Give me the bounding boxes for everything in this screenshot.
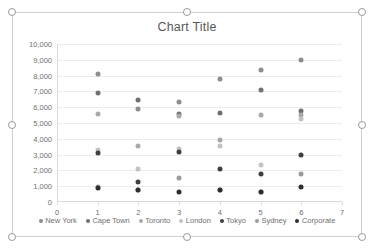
legend-item-london[interactable]: London [179, 216, 211, 225]
data-point[interactable] [258, 171, 263, 176]
y-tick-label: 6,000 [20, 103, 52, 112]
legend-marker-icon [139, 219, 143, 223]
y-tick-label: 10,000 [20, 40, 52, 49]
x-tick-mark [138, 202, 139, 205]
x-tick-mark [220, 202, 221, 205]
data-point[interactable] [136, 167, 141, 172]
y-tick-label: 2,000 [20, 166, 52, 175]
data-point[interactable] [136, 179, 141, 184]
legend-label: London [186, 216, 211, 225]
legend-item-tokyo[interactable]: Tokyo [220, 216, 246, 225]
gridline-y [57, 44, 342, 45]
legend-label: Cape Town [92, 216, 129, 225]
y-tick-label: 3,000 [20, 151, 52, 160]
data-point[interactable] [217, 143, 222, 148]
data-point[interactable] [177, 149, 182, 154]
data-point[interactable] [177, 175, 182, 180]
data-point[interactable] [177, 189, 182, 194]
legend-marker-icon [179, 219, 183, 223]
legend-label: New York [45, 216, 77, 225]
data-point[interactable] [299, 57, 304, 62]
y-tick-label: 7,000 [20, 87, 52, 96]
resize-handle-bottom-left[interactable] [8, 233, 16, 241]
data-point[interactable] [95, 150, 100, 155]
data-point[interactable] [177, 99, 182, 104]
x-tick-mark [57, 202, 58, 205]
resize-handle-top-left[interactable] [8, 8, 16, 16]
chart-object[interactable]: Chart Title 01,0002,0003,0004,0005,0006,… [12, 12, 362, 237]
resize-handle-middle-right[interactable] [358, 121, 366, 129]
data-point[interactable] [217, 77, 222, 82]
resize-handle-middle-left[interactable] [8, 121, 16, 129]
data-point[interactable] [136, 98, 141, 103]
data-point[interactable] [299, 172, 304, 177]
resize-handle-bottom-right[interactable] [358, 233, 366, 241]
y-tick-label: 5,000 [20, 119, 52, 128]
x-tick-mark [301, 202, 302, 205]
legend-item-cape-town[interactable]: Cape Town [86, 216, 130, 225]
y-tick-label: 4,000 [20, 135, 52, 144]
resize-handle-bottom-center[interactable] [183, 233, 191, 241]
resize-handle-top-right[interactable] [358, 8, 366, 16]
data-point[interactable] [136, 143, 141, 148]
data-point[interactable] [258, 68, 263, 73]
data-point[interactable] [136, 187, 141, 192]
legend-item-sydney[interactable]: Sydney [255, 216, 287, 225]
legend-marker-icon [39, 219, 43, 223]
legend-marker-icon [86, 219, 90, 223]
x-tick-mark [261, 202, 262, 205]
data-point[interactable] [177, 113, 182, 118]
legend-label: Sydney [261, 216, 286, 225]
y-tick-label: 1,000 [20, 182, 52, 191]
data-point[interactable] [217, 166, 222, 171]
chart-legend[interactable]: New YorkCape TownTorontoLondonTokyoSydne… [12, 216, 362, 225]
data-point[interactable] [95, 90, 100, 95]
data-point[interactable] [217, 138, 222, 143]
legend-item-new-york[interactable]: New York [39, 216, 77, 225]
legend-marker-icon [255, 219, 259, 223]
gridline-y [57, 76, 342, 77]
data-point[interactable] [217, 110, 222, 115]
data-point[interactable] [299, 152, 304, 157]
data-point[interactable] [258, 112, 263, 117]
data-point[interactable] [95, 112, 100, 117]
legend-label: Toronto [145, 216, 170, 225]
y-tick-label: 9,000 [20, 56, 52, 65]
data-point[interactable] [299, 184, 304, 189]
x-axis-line [57, 201, 342, 202]
gridline-y [57, 123, 342, 124]
legend-marker-icon [295, 219, 299, 223]
x-tick-mark [179, 202, 180, 205]
legend-item-toronto[interactable]: Toronto [139, 216, 171, 225]
legend-marker-icon [220, 219, 224, 223]
data-point[interactable] [95, 71, 100, 76]
plot-area[interactable] [57, 44, 342, 202]
gridline-y [57, 139, 342, 140]
legend-label: Corporate [302, 216, 335, 225]
chart-title[interactable]: Chart Title [12, 20, 362, 34]
data-point[interactable] [258, 87, 263, 92]
data-point[interactable] [258, 190, 263, 195]
data-point[interactable] [217, 188, 222, 193]
resize-handle-top-center[interactable] [183, 8, 191, 16]
data-point[interactable] [95, 186, 100, 191]
data-point[interactable] [136, 106, 141, 111]
legend-item-corporate[interactable]: Corporate [295, 216, 335, 225]
y-tick-label: 8,000 [20, 72, 52, 81]
x-tick-mark [98, 202, 99, 205]
y-tick-label: 0 [20, 198, 52, 207]
x-tick-mark [342, 202, 343, 205]
data-point[interactable] [299, 116, 304, 121]
data-point[interactable] [258, 163, 263, 168]
legend-label: Tokyo [226, 216, 246, 225]
y-axis-line [57, 44, 58, 202]
